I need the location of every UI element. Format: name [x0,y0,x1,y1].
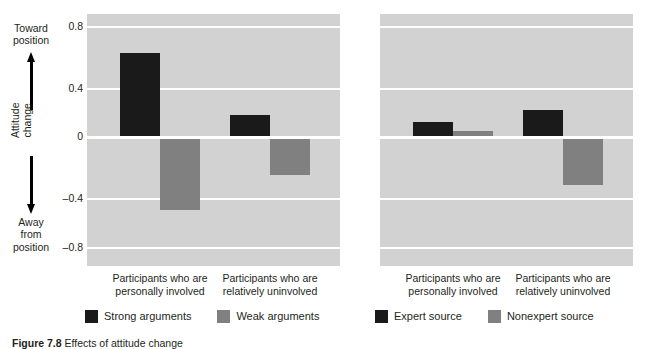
figure-caption-text: Effects of attitude change [65,337,183,349]
ytick--0.4: –0.4 [53,193,83,204]
arrow-shaft-lower [30,156,33,206]
legend-swatch-icon-strong-arguments [85,310,98,323]
legend-item-strong-arguments: Strong arguments [85,310,191,323]
bar-nonexpert-source-personally-involved [453,131,493,136]
gridline--0.8 [380,247,633,249]
arrow-down-icon [27,204,35,214]
legend-label-expert-source: Expert source [394,310,462,323]
bar-strong-arguments-relatively-uninvolved [230,115,270,136]
gridline-0.8 [87,26,340,28]
legend-argument-quality: Strong arguments Weak arguments [85,308,345,324]
gridline--0.4 [87,198,340,200]
legend-swatch-icon-weak-arguments [217,310,230,323]
bar-nonexpert-source-relatively-uninvolved [563,139,603,185]
legend-item-expert-source: Expert source [375,310,462,323]
plot-area-source-expertise [380,14,633,266]
bar-strong-arguments-personally-involved [120,53,160,136]
ytick--0.8: –0.8 [53,242,83,253]
category-label-relatively-uninvolved: Participants who arerelatively uninvolve… [495,272,631,298]
gridline--0.8 [87,247,340,249]
legend-swatch-icon-nonexpert-source [488,310,501,323]
ytick-0.4: 0.4 [53,83,83,94]
legend-item-weak-arguments: Weak arguments [217,310,319,323]
bar-weak-arguments-personally-involved [160,139,200,210]
figure-caption-label: Figure 7.8 [12,337,62,349]
ytick-0: 0 [53,131,83,142]
attitude-change-axis-annotation: Towardposition Attitudechange Awayfrompo… [0,20,62,270]
bar-expert-source-personally-involved [413,122,453,136]
gridline-0.4 [380,88,633,90]
legend-swatch-icon-expert-source [375,310,388,323]
plot-area-argument-quality [87,14,340,266]
figure-caption: Figure 7.8 Effects of attitude change [12,337,652,349]
bar-weak-arguments-relatively-uninvolved [270,139,310,175]
legend-label-nonexpert-source: Nonexpert source [507,310,594,323]
legend-label-strong-arguments: Strong arguments [104,310,191,323]
category-label-relatively-uninvolved: Participants who arerelatively uninvolve… [202,272,338,298]
axis-title-attitude-change: Attitudechange [9,82,34,158]
ytick-0.8: 0.8 [53,21,83,32]
gridline--0.4 [380,198,633,200]
legend-item-nonexpert-source: Nonexpert source [488,310,594,323]
legend-label-weak-arguments: Weak arguments [236,310,319,323]
gridline-0.8 [380,26,633,28]
legend-source-expertise: Expert source Nonexpert source [375,308,620,324]
bar-expert-source-relatively-uninvolved [523,110,563,136]
